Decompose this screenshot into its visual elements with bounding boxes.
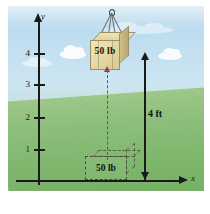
- y-tick-label-1: 1: [18, 144, 30, 154]
- cloud-icon: [60, 50, 86, 59]
- x-axis-label: x: [191, 173, 195, 183]
- drop-path-dashed-line: [107, 70, 108, 160]
- physics-figure: y x 4 3 2 1 50 lb 50 lb 4 ft: [0, 0, 210, 214]
- y-tick-mark: [34, 149, 45, 151]
- crate-weight-label: 50 lb: [90, 46, 120, 56]
- x-axis-arrow-icon: [179, 176, 188, 184]
- cloud-icon: [158, 52, 182, 60]
- suspended-crate: 50 lb: [84, 8, 140, 70]
- cloud-icon: [22, 60, 52, 67]
- y-axis-label: y: [41, 11, 45, 21]
- y-tick-label-2: 2: [18, 112, 30, 122]
- y-tick-mark: [34, 117, 45, 119]
- y-tick-label-4: 4: [18, 48, 30, 58]
- y-tick-mark: [34, 53, 45, 55]
- crate-side-face: [119, 26, 129, 64]
- x-axis-line: [16, 180, 181, 182]
- dimension-height-label: 4 ft: [148, 108, 162, 119]
- dimension-line: [144, 58, 145, 180]
- ghost-crate-weight-label: 50 lb: [85, 163, 127, 173]
- y-tick-label-3: 3: [18, 79, 30, 89]
- y-axis-line: [38, 20, 40, 185]
- dimension-arrow-down-icon: [141, 172, 149, 180]
- y-tick-mark: [34, 84, 45, 86]
